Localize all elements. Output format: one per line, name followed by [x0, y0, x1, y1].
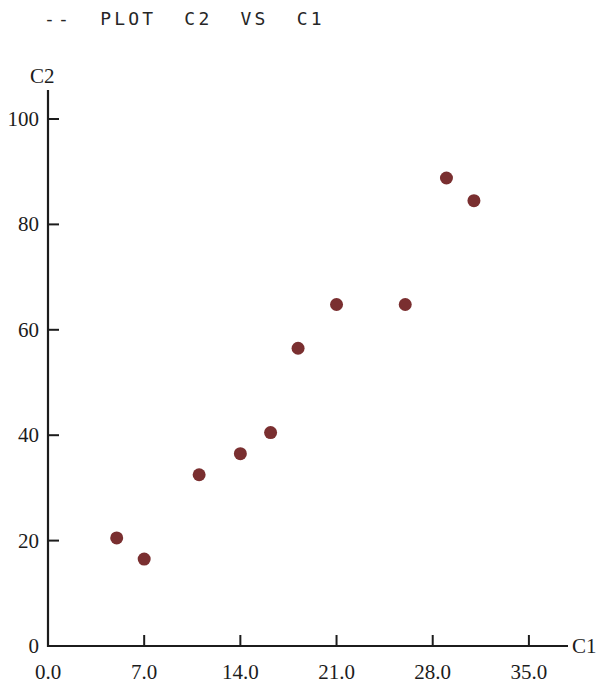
data-point [264, 426, 277, 439]
x-axis-tick-label: 0.0 [35, 662, 61, 683]
data-point [330, 298, 343, 311]
x-axis-tick-label: 21.0 [318, 662, 355, 683]
x-axis-label: C1 [572, 636, 597, 657]
data-point [193, 468, 206, 481]
data-point [234, 447, 247, 460]
x-axis-ticks [144, 635, 529, 646]
x-axis-tick-label: 28.0 [414, 662, 451, 683]
x-axis-tick-label: 35.0 [511, 662, 548, 683]
data-point [138, 553, 151, 566]
y-axis-ticks [48, 119, 59, 541]
x-axis-tick-label: 7.0 [131, 662, 157, 683]
data-point [399, 298, 412, 311]
data-point-series [110, 172, 480, 566]
data-point [110, 531, 123, 544]
y-axis-tick-label: 40 [18, 425, 39, 446]
y-axis-tick-label: 100 [8, 109, 40, 130]
data-point [440, 172, 453, 185]
y-axis-tick-label: 60 [18, 319, 39, 340]
data-point [467, 194, 480, 207]
y-axis-tick-label: 20 [18, 530, 39, 551]
y-axis-tick-label: 0 [29, 636, 40, 657]
plot-canvas [0, 0, 602, 687]
y-axis-label: C2 [30, 66, 55, 87]
scatter-plot-figure: C2 C1 020406080100 0.07.014.021.028.035.… [0, 0, 602, 687]
y-axis-tick-label: 80 [18, 214, 39, 235]
data-point [292, 342, 305, 355]
x-axis-tick-label: 14.0 [222, 662, 259, 683]
